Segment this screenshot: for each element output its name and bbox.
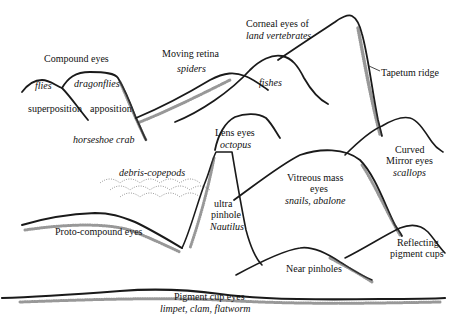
label-octopus: octopus	[220, 139, 251, 150]
shade-ultra-pinhole	[190, 158, 214, 248]
ridge-mirror	[345, 117, 443, 155]
label-dragonflies: dragonflies	[74, 78, 120, 89]
label-near-pinholes: Near pinholes	[286, 263, 342, 274]
tapetum-pointer-line	[369, 66, 380, 71]
copepod-arcs	[100, 179, 210, 197]
label-spiders: spiders	[177, 63, 206, 74]
label-moving-retina: Moving retina	[162, 48, 219, 59]
label-pigment-cup-eyes: Pigment cup eyes	[174, 291, 245, 302]
label-reflecting: Reflecting	[397, 237, 439, 248]
label-superposition: superposition	[28, 103, 82, 114]
label-land-vertebrates: land vertebrates	[246, 30, 311, 41]
label-nautilus: Nautilus	[210, 221, 244, 232]
label-snails-abalone: snails, abalone	[285, 195, 346, 206]
label-compound-eyes: Compound eyes	[44, 53, 109, 64]
label-corneal-eyes: Corneal eyes of	[246, 18, 309, 29]
label-horseshoe-crab: horseshoe crab	[73, 134, 134, 145]
ridge-moving-retina	[136, 73, 268, 118]
label-curved: Curved	[395, 144, 424, 155]
label-vitreous-eyes: eyes	[310, 183, 328, 194]
label-vitreous-mass: Vitreous mass	[287, 172, 343, 183]
label-lens-eyes: Lens eyes	[215, 127, 255, 138]
label-apposition: apposition	[90, 103, 132, 114]
label-mirror-eyes: Mirror eyes	[386, 155, 433, 166]
shade-corneal	[358, 28, 380, 134]
label-pinhole: pinhole	[211, 209, 241, 220]
label-scallops: scallops	[393, 167, 426, 178]
label-tapetum-ridge: Tapetum ridge	[381, 67, 439, 78]
label-fishes: fishes	[259, 77, 282, 88]
label-debris-copepods: debris-copepods	[119, 167, 185, 178]
label-proto-compound: Proto-compound eyes	[55, 226, 143, 237]
shade-moving-retina	[140, 80, 230, 122]
label-limpet-clam-flatworm: limpet, clam, flatworm	[160, 303, 251, 314]
label-flies: flies	[35, 80, 52, 91]
label-pigment-cups: pigment cups	[390, 248, 444, 259]
label-ultra: ultra	[214, 198, 232, 209]
